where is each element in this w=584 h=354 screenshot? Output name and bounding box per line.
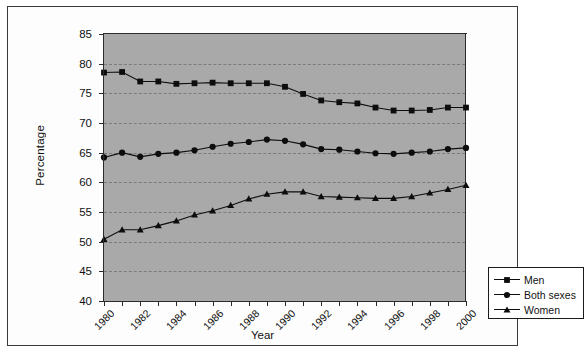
data-point-square xyxy=(427,107,433,113)
data-point-circle xyxy=(372,150,378,156)
y-axis-tick-label: 70 xyxy=(66,117,92,129)
legend-item-both-sexes[interactable]: Both sexes xyxy=(494,287,578,302)
y-axis-tick xyxy=(99,64,104,65)
data-point-circle xyxy=(336,147,342,153)
data-point-square xyxy=(336,99,342,105)
y-axis-tick-label: 45 xyxy=(66,265,92,277)
data-point-triangle xyxy=(504,306,511,312)
y-axis-tick-label: 80 xyxy=(66,58,92,70)
data-point-square xyxy=(137,79,143,85)
legend-item-women[interactable]: Women xyxy=(494,302,578,317)
data-point-circle xyxy=(445,146,451,152)
data-point-square xyxy=(409,108,415,114)
data-point-square xyxy=(210,80,216,86)
x-axis-tick xyxy=(376,301,377,306)
data-point-circle xyxy=(409,150,415,156)
data-point-circle xyxy=(155,151,161,157)
y-axis-tick-label: 60 xyxy=(66,176,92,188)
data-point-square xyxy=(192,80,198,86)
x-axis-tick xyxy=(122,301,123,306)
x-axis-tick xyxy=(466,301,467,306)
data-point-triangle xyxy=(463,182,470,188)
x-axis-tick xyxy=(267,301,268,306)
legend-label: Both sexes xyxy=(524,289,576,301)
data-point-circle xyxy=(318,146,324,152)
data-point-square xyxy=(463,105,469,111)
data-point-square xyxy=(355,101,361,107)
y-axis-tick xyxy=(99,212,104,213)
plot-top-rule xyxy=(103,33,467,34)
y-axis-tick-label: 50 xyxy=(66,236,92,248)
x-axis-tick xyxy=(357,301,358,306)
series-women xyxy=(101,182,470,242)
x-axis-title: Year xyxy=(8,329,517,341)
data-point-square xyxy=(373,105,379,111)
data-point-circle xyxy=(119,150,125,156)
data-point-circle xyxy=(101,154,107,160)
y-axis-tick xyxy=(99,242,104,243)
y-axis-tick xyxy=(99,153,104,154)
y-axis-tick xyxy=(99,93,104,94)
data-point-square xyxy=(282,84,288,90)
legend-marker-square-icon xyxy=(494,274,520,286)
y-axis-tick xyxy=(99,271,104,272)
data-point-square xyxy=(174,81,180,87)
legend-label: Men xyxy=(524,274,544,286)
series-men xyxy=(101,69,469,113)
x-axis-tick xyxy=(213,301,214,306)
x-axis-tick xyxy=(104,301,105,306)
x-axis-tick xyxy=(231,301,232,306)
y-axis-tick-label: 40 xyxy=(66,295,92,307)
x-axis-tick xyxy=(140,301,141,306)
chart-figure: Percentage MenBoth sexesWomen 4045505560… xyxy=(7,6,518,346)
data-point-circle xyxy=(300,141,306,147)
data-point-square xyxy=(445,105,451,111)
y-axis-title: Percentage xyxy=(34,125,48,186)
data-point-circle xyxy=(504,291,510,297)
data-point-square xyxy=(119,69,125,75)
data-point-square xyxy=(246,80,252,86)
legend-marker-triangle-icon xyxy=(494,304,520,316)
x-axis-tick xyxy=(430,301,431,306)
data-point-circle xyxy=(173,150,179,156)
data-point-circle xyxy=(463,145,469,151)
data-point-square xyxy=(391,108,397,114)
x-axis-tick xyxy=(285,301,286,306)
chart-legend[interactable]: MenBoth sexesWomen xyxy=(488,267,584,319)
data-point-circle xyxy=(354,148,360,154)
x-axis-tick xyxy=(448,301,449,306)
legend-item-men[interactable]: Men xyxy=(494,272,578,287)
data-point-square xyxy=(101,70,107,76)
series-layer xyxy=(104,34,466,301)
x-axis-tick xyxy=(412,301,413,306)
data-point-circle xyxy=(191,147,197,153)
y-axis-tick-label: 85 xyxy=(66,28,92,40)
data-point-square xyxy=(228,80,234,86)
data-point-circle xyxy=(264,137,270,143)
data-point-square xyxy=(504,277,510,283)
x-axis-tick xyxy=(321,301,322,306)
plot-area: MenBoth sexesWomen xyxy=(104,34,466,301)
y-axis-line xyxy=(103,33,104,302)
data-point-circle xyxy=(210,144,216,150)
series-both-sexes xyxy=(101,137,469,161)
x-axis-tick xyxy=(339,301,340,306)
data-point-square xyxy=(318,98,324,104)
y-axis-tick xyxy=(99,34,104,35)
data-point-circle xyxy=(246,139,252,145)
data-point-square xyxy=(155,79,161,85)
y-axis-tick-label: 65 xyxy=(66,147,92,159)
data-point-circle xyxy=(427,148,433,154)
data-point-circle xyxy=(137,154,143,160)
data-point-square xyxy=(264,80,270,86)
x-axis-tick xyxy=(394,301,395,306)
data-point-square xyxy=(300,91,306,97)
y-axis-tick xyxy=(99,123,104,124)
x-axis-tick xyxy=(176,301,177,306)
legend-marker-circle-icon xyxy=(494,289,520,301)
y-axis-tick xyxy=(99,182,104,183)
y-axis-tick-label: 55 xyxy=(66,206,92,218)
data-point-circle xyxy=(282,138,288,144)
x-axis-tick xyxy=(303,301,304,306)
data-point-circle xyxy=(228,141,234,147)
